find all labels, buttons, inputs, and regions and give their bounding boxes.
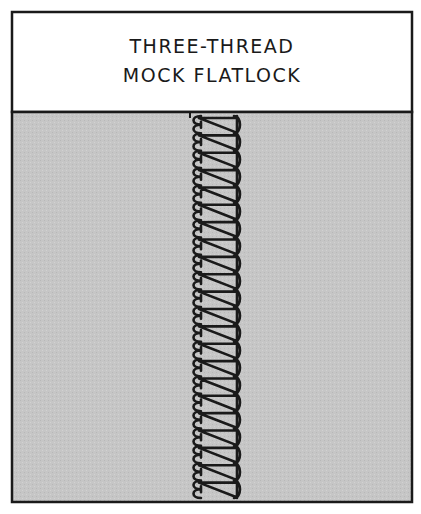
title-line-2: MOCK FLATLOCK — [123, 64, 301, 86]
title-panel — [12, 12, 412, 112]
flatlock-diagram: THREE-THREAD MOCK FLATLOCK — [0, 0, 421, 514]
title-line-1: THREE-THREAD — [129, 35, 295, 57]
